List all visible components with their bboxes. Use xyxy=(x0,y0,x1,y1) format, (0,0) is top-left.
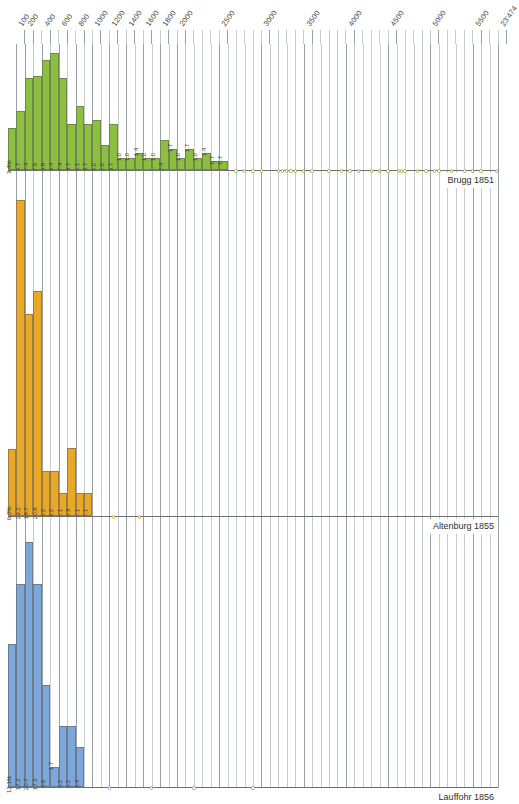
axis-tick-label: 1400 xyxy=(127,9,144,28)
bar[interactable]: 9.4 xyxy=(50,53,58,171)
axis-tick xyxy=(413,30,414,44)
bar[interactable]: 6.3 xyxy=(67,448,75,516)
axis-tick xyxy=(109,30,110,44)
data-point-marker[interactable] xyxy=(294,169,297,172)
bar[interactable]: 4.0 xyxy=(92,120,100,170)
data-point-marker[interactable] xyxy=(150,786,153,789)
bar[interactable]: 7.5 xyxy=(33,76,41,170)
axis-tick xyxy=(371,30,372,44)
axis-tick-label: 600 xyxy=(59,12,74,28)
bar[interactable]: 6.2% xyxy=(8,449,16,516)
data-point-marker[interactable] xyxy=(403,169,406,172)
axis-tick xyxy=(261,30,262,44)
data-point-marker[interactable] xyxy=(277,169,280,172)
data-point-marker[interactable] xyxy=(348,169,351,172)
bar[interactable]: 1.0 xyxy=(152,158,160,171)
plot-area: 3.4%4.77.47.58.89.47.43.75.13.74.02.03.7… xyxy=(8,44,498,788)
axis-tick xyxy=(498,30,499,44)
axis-tick xyxy=(438,30,439,44)
data-point-marker[interactable] xyxy=(260,169,263,172)
bar[interactable]: 17.2 xyxy=(33,584,41,787)
axis-tick xyxy=(379,30,380,44)
data-point-marker[interactable] xyxy=(243,169,246,172)
bar[interactable]: 20.7 xyxy=(25,542,33,787)
axis-tick xyxy=(362,30,363,44)
bar[interactable]: 2.1 xyxy=(76,493,84,516)
bar[interactable]: 4.2 xyxy=(50,471,58,516)
data-point-marker[interactable] xyxy=(112,515,115,518)
axis-tick xyxy=(286,30,287,44)
axis-tick xyxy=(312,30,313,44)
bar[interactable]: 7.4 xyxy=(59,78,67,171)
axis-tick-label: 3000 xyxy=(262,9,279,28)
bar[interactable]: 3.7 xyxy=(109,124,117,170)
axis-tick xyxy=(422,30,423,44)
bar[interactable]: 3.4 xyxy=(76,747,84,787)
data-point-marker[interactable] xyxy=(327,169,330,172)
axis-tick-label: 800 xyxy=(76,12,91,28)
bar[interactable]: 0.7 xyxy=(211,161,219,170)
data-point-marker[interactable] xyxy=(289,169,292,172)
axis-tick xyxy=(151,30,152,44)
axis-tick xyxy=(75,30,76,44)
bar[interactable]: 5.2 xyxy=(59,726,67,787)
bar[interactable]: 5.2 xyxy=(67,726,75,787)
axis-tick xyxy=(41,30,42,44)
bar[interactable]: 7.4 xyxy=(25,78,33,171)
data-point-marker[interactable] xyxy=(386,169,389,172)
data-point-marker[interactable] xyxy=(251,169,254,172)
bar[interactable]: 3.7 xyxy=(84,124,92,170)
data-point-marker[interactable] xyxy=(370,169,373,172)
series-panel: 3.4%4.77.47.58.89.47.43.75.13.74.02.03.7… xyxy=(8,44,498,171)
bar[interactable]: 2.1 xyxy=(59,493,67,516)
axis-tick xyxy=(345,30,346,44)
axis-tick xyxy=(143,30,144,44)
bar[interactable]: 1.4 xyxy=(135,153,143,171)
bar[interactable]: 8.8 xyxy=(42,60,50,170)
data-point-marker[interactable] xyxy=(108,786,111,789)
series-panel: 12.1%17.220.717.28.61.75.25.23.4 xyxy=(8,526,498,788)
bar[interactable]: 0.7 xyxy=(219,161,227,170)
bar[interactable]: 1.0 xyxy=(194,158,202,171)
x-axis-top: 1002004006008001000120014001600180020002… xyxy=(8,0,498,44)
bar[interactable]: 2.1 xyxy=(84,493,92,516)
data-point-marker[interactable] xyxy=(192,786,195,789)
bar[interactable]: 1.4 xyxy=(202,153,210,171)
axis-tick xyxy=(472,30,473,44)
bar[interactable]: 18.7 xyxy=(25,314,33,516)
data-point-marker[interactable] xyxy=(251,786,254,789)
bar[interactable]: 3.7 xyxy=(67,124,75,170)
data-point-marker[interactable] xyxy=(437,169,440,172)
bar[interactable]: 1.0 xyxy=(177,158,185,171)
data-point-marker[interactable] xyxy=(234,169,237,172)
bar[interactable]: 17.2 xyxy=(16,584,24,787)
axis-tick xyxy=(236,30,237,44)
bar[interactable]: 2.4 xyxy=(160,140,168,170)
bar[interactable]: 12.1% xyxy=(8,644,16,787)
data-point-marker[interactable] xyxy=(281,169,284,172)
axis-tick xyxy=(126,30,127,44)
data-point-marker[interactable] xyxy=(433,169,436,172)
bar[interactable]: 4.2 xyxy=(42,471,50,516)
bar[interactable]: 1.0 xyxy=(118,158,126,171)
bar[interactable]: 20.8 xyxy=(33,291,41,516)
bar[interactable]: 5.1 xyxy=(76,106,84,170)
bar[interactable]: 1.0 xyxy=(126,158,134,171)
axis-tick xyxy=(58,30,59,44)
bar[interactable]: 1.7 xyxy=(169,149,177,170)
bar[interactable]: 1.7 xyxy=(185,149,193,170)
bar[interactable]: 1.7 xyxy=(50,767,58,787)
bar[interactable]: 8.6 xyxy=(42,685,50,787)
axis-tick xyxy=(269,30,270,44)
data-point-marker[interactable] xyxy=(310,169,313,172)
bar-value-label: 12.1% xyxy=(6,775,12,793)
axis-tick xyxy=(185,30,186,44)
data-point-marker[interactable] xyxy=(424,169,427,172)
data-point-marker[interactable] xyxy=(357,169,360,172)
bar[interactable]: 1.0 xyxy=(143,158,151,171)
bar[interactable]: 2.0 xyxy=(101,145,109,170)
bar[interactable]: 29.2 xyxy=(16,200,24,516)
bar[interactable]: 4.7 xyxy=(16,111,24,170)
bar[interactable]: 3.4% xyxy=(8,128,16,171)
axis-tick xyxy=(202,30,203,44)
